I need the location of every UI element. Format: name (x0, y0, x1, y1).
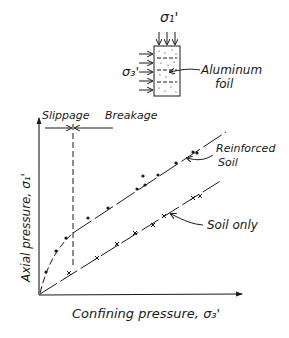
reinforced-soil-points (44, 150, 198, 273)
soil-only-curve (40, 180, 222, 294)
sigma1-label: σ₁' (160, 9, 178, 25)
reinforced-label-line2: Soil (218, 156, 238, 169)
slippage-breakage-marker (45, 124, 113, 268)
breakage-label: Breakage (105, 109, 158, 122)
specimen-sketch (139, 32, 200, 96)
soil-only-leader (171, 214, 203, 225)
axes (39, 118, 242, 295)
x-axis-label: Confining pressure, σ₃' (72, 306, 220, 321)
slippage-label: Slippage (42, 109, 90, 122)
sigma3-label: σ₃' (122, 64, 139, 79)
foil-leader (170, 69, 200, 72)
foil-label-line1: Aluminum (200, 63, 262, 77)
triaxial-diagram: σ₁' σ₃' Aluminum foil Slippage Breakage … (0, 0, 289, 338)
reinforced-label-line1: Reinforced (216, 142, 276, 155)
x-axis (39, 294, 242, 295)
foil-label-line2: foil (215, 77, 234, 91)
reinforced-soil-curve (40, 132, 226, 293)
soil-only-label: Soil only (207, 218, 259, 232)
y-axis-label: Axial pressure, σ₁' (19, 173, 33, 283)
